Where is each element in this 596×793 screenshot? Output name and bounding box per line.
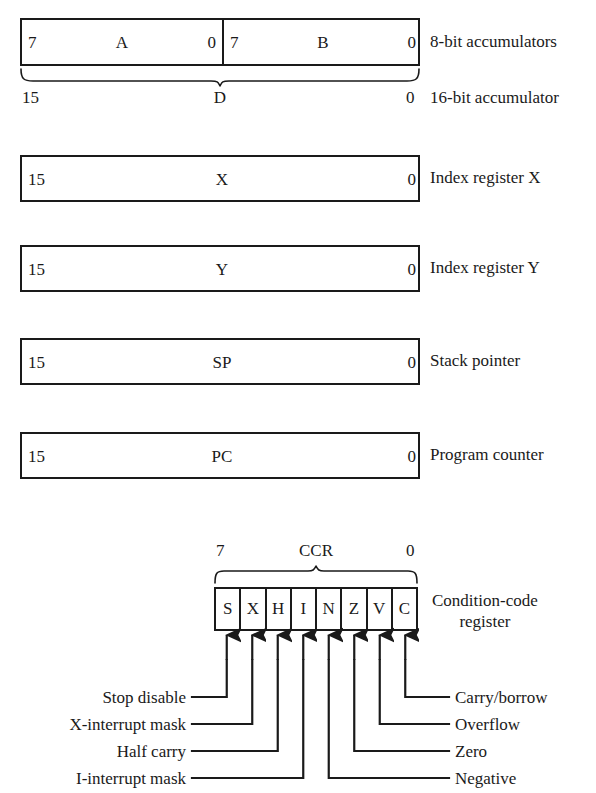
description-index-y: Index register Y [430, 258, 540, 278]
bit-lsb-a: 0 [208, 34, 217, 51]
description-accumulators: 8-bit accumulators [430, 32, 557, 52]
description-index-x: Index register X [430, 168, 540, 188]
ccr-bit-s: S [216, 589, 241, 629]
leader-line-overflow [380, 660, 449, 724]
bit-lsb-x: 0 [408, 170, 417, 187]
callout-label-half-carry: Half carry [0, 743, 186, 760]
bit-lsb-y: 0 [408, 260, 417, 277]
register-name-pc: PC [22, 447, 422, 464]
description-condition-code-register: Condition-code register [432, 590, 538, 632]
callout-label-x-interrupt-mask: X-interrupt mask [0, 716, 186, 733]
cpu-register-diagram: 7 A 0 7 B 0 8-bit accumulators 15 D 0 16… [0, 0, 596, 793]
ccr-bit-i: I [292, 589, 317, 629]
register-cell-x: 15 X 0 [22, 157, 422, 200]
brace-ccr [215, 566, 417, 583]
register-cell-pc: 15 PC 0 [22, 434, 422, 477]
ccr-bit-c: C [393, 589, 416, 629]
register-cell-sp: 15 SP 0 [22, 340, 422, 383]
register-box-index-y: 15 Y 0 [20, 245, 420, 292]
callout-label-i-interrupt-mask: I-interrupt mask [0, 770, 186, 787]
register-box-stack-pointer: 15 SP 0 [20, 338, 420, 385]
bit-lsb-d: 0 [406, 89, 415, 106]
brace-d-accumulator [21, 69, 419, 86]
leader-line-negative [329, 660, 449, 778]
register-name-sp: SP [22, 353, 422, 370]
ccr-bit-v: V [368, 589, 393, 629]
register-name-b: B [224, 34, 422, 51]
description-ccr-line1: Condition-code [432, 590, 538, 611]
bit-lsb-pc: 0 [408, 447, 417, 464]
register-name-d: D [20, 89, 420, 106]
leader-line-carry-borrow [405, 660, 449, 697]
register-cell-a: 7 A 0 [22, 20, 222, 64]
leader-line-x-interrupt-mask [192, 660, 252, 724]
ccr-bit-n: N [317, 589, 342, 629]
ccr-bit-z: Z [342, 589, 367, 629]
bit-lsb-b: 0 [408, 34, 417, 51]
leader-line-half-carry [192, 660, 278, 751]
description-ccr-line2: register [432, 611, 538, 632]
register-name-x: X [22, 170, 422, 187]
description-program-counter: Program counter [430, 445, 544, 465]
leader-line-i-interrupt-mask [192, 660, 303, 778]
callout-label-zero: Zero [455, 743, 487, 760]
register-box-condition-code: S X H I N Z V C [214, 587, 418, 631]
ccr-bit-arrows [227, 635, 406, 660]
ccr-bit-h: H [267, 589, 292, 629]
callout-label-negative: Negative [455, 770, 516, 787]
callout-label-carry-borrow: Carry/borrow [455, 689, 548, 706]
register-box-index-x: 15 X 0 [20, 155, 420, 202]
diagram-line-overlay [0, 0, 596, 793]
description-d-accumulator: 16-bit accumulator [430, 88, 559, 108]
description-stack-pointer: Stack pointer [430, 351, 520, 371]
register-cell-b: 7 B 0 [222, 20, 422, 64]
leader-line-stop-disable [192, 660, 227, 697]
ccr-leader-lines-left [192, 660, 303, 778]
register-name-y: Y [22, 260, 422, 277]
leader-line-zero [354, 660, 449, 751]
callout-label-stop-disable: Stop disable [0, 689, 186, 706]
register-box-accumulators: 7 A 0 7 B 0 [20, 18, 420, 66]
register-name-ccr: CCR [214, 542, 418, 559]
register-name-a: A [22, 34, 222, 51]
register-cell-y: 15 Y 0 [22, 247, 422, 290]
bit-lsb-ccr: 0 [406, 542, 415, 559]
callout-label-overflow: Overflow [455, 716, 520, 733]
ccr-bit-x: X [241, 589, 266, 629]
register-box-program-counter: 15 PC 0 [20, 432, 420, 479]
ccr-leader-lines-right [329, 660, 449, 778]
bit-lsb-sp: 0 [408, 353, 417, 370]
